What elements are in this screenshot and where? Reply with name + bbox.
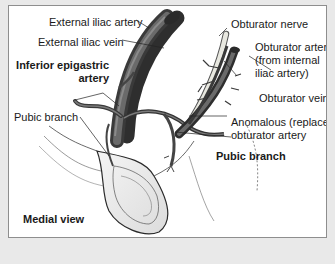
label-pubic-branch-right: Pubic branch bbox=[216, 150, 286, 163]
diagram-panel: External iliac artery External iliac vei… bbox=[8, 5, 327, 238]
label-obturator-vein: Obturator vein bbox=[259, 92, 327, 105]
anomalous-obturator-artery bbox=[124, 111, 224, 134]
label-external-iliac-artery: External iliac artery bbox=[49, 16, 143, 29]
label-anomalous-obturator-artery: Anomalous (replaced) obturator artery bbox=[231, 116, 327, 142]
label-obturator-artery: Obturator artery (from internal iliac ar… bbox=[255, 41, 327, 80]
label-inferior-epigastric-artery: Inferior epigastric artery bbox=[16, 59, 109, 85]
view-label: Medial view bbox=[23, 213, 84, 226]
label-external-iliac-vein: External iliac vein bbox=[38, 36, 124, 49]
label-pubic-branch-left: Pubic branch bbox=[14, 111, 78, 124]
pubic-branch-right-vessel bbox=[164, 114, 174, 166]
label-obturator-nerve: Obturator nerve bbox=[231, 18, 308, 31]
